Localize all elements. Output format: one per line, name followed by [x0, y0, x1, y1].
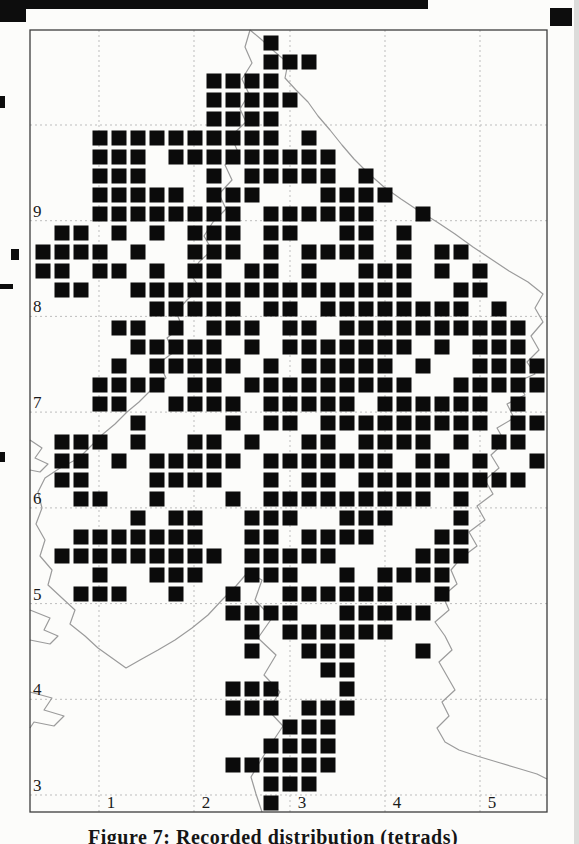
tetrad-square	[169, 340, 184, 355]
tetrad-square	[321, 169, 336, 184]
tetrad-square	[283, 758, 298, 773]
tetrad-square	[302, 55, 317, 70]
tetrad-square	[359, 454, 374, 469]
y-axis-label: 9	[33, 202, 42, 221]
tetrad-square	[207, 435, 222, 450]
tetrad-square	[397, 492, 412, 507]
tetrad-square	[454, 283, 469, 298]
y-axis-label: 4	[33, 680, 42, 699]
tetrad-square	[93, 397, 108, 412]
tetrad-square	[302, 378, 317, 393]
tetrad-square	[74, 435, 89, 450]
tetrad-square	[169, 511, 184, 526]
tetrad-square	[188, 568, 203, 583]
tetrad-square	[283, 454, 298, 469]
tetrad-square	[321, 587, 336, 602]
tetrad-square	[340, 530, 355, 545]
tetrad-square	[74, 454, 89, 469]
y-axis-label: 8	[33, 297, 42, 316]
tetrad-square	[93, 150, 108, 165]
tetrad-square	[321, 530, 336, 545]
tetrad-square	[188, 454, 203, 469]
tetrad-square	[435, 530, 450, 545]
tetrad-square	[207, 340, 222, 355]
tetrad-square	[245, 188, 260, 203]
tetrad-square	[473, 416, 488, 431]
tetrad-square	[93, 549, 108, 564]
tetrad-square	[264, 492, 279, 507]
tetrad-square	[435, 245, 450, 260]
tetrad-square	[302, 587, 317, 602]
tetrad-square	[359, 511, 374, 526]
tetrad-square	[283, 587, 298, 602]
tetrad-square	[74, 245, 89, 260]
tetrad-square	[112, 530, 127, 545]
tetrad-square	[283, 606, 298, 621]
tetrad-square	[131, 530, 146, 545]
tetrad-square	[359, 606, 374, 621]
tetrad-square	[169, 321, 184, 336]
tetrad-square	[245, 511, 260, 526]
tetrad-square	[454, 530, 469, 545]
tetrad-square	[264, 777, 279, 792]
tetrad-square	[264, 74, 279, 89]
tetrad-square	[397, 245, 412, 260]
tetrad-square	[435, 340, 450, 355]
tetrad-square	[264, 758, 279, 773]
tetrad-square	[226, 283, 241, 298]
tetrad-square	[245, 644, 260, 659]
tetrad-square	[492, 321, 507, 336]
tetrad-square	[283, 226, 298, 241]
tetrad-square	[435, 397, 450, 412]
tetrad-square	[55, 245, 70, 260]
scan-artifact	[0, 284, 13, 289]
tetrad-square	[283, 207, 298, 222]
tetrad-square	[226, 207, 241, 222]
tetrad-square	[131, 378, 146, 393]
y-axis-label: 5	[33, 585, 42, 604]
tetrad-square	[188, 340, 203, 355]
tetrad-square	[207, 169, 222, 184]
tetrad-square	[150, 492, 165, 507]
tetrad-square	[321, 150, 336, 165]
tetrad-square	[188, 207, 203, 222]
tetrad-square	[397, 378, 412, 393]
tetrad-square	[473, 321, 488, 336]
tetrad-square	[93, 264, 108, 279]
tetrad-square	[492, 473, 507, 488]
tetrad-square	[302, 283, 317, 298]
tetrad-square	[340, 682, 355, 697]
scan-artifact	[11, 249, 19, 260]
tetrad-square	[207, 473, 222, 488]
tetrad-square	[264, 378, 279, 393]
tetrad-square	[55, 454, 70, 469]
tetrad-square	[74, 549, 89, 564]
county-outline	[30, 440, 48, 472]
tetrad-square	[416, 416, 431, 431]
tetrad-square	[169, 150, 184, 165]
tetrad-square	[207, 207, 222, 222]
tetrad-square	[340, 511, 355, 526]
tetrad-square	[226, 245, 241, 260]
tetrad-square	[397, 321, 412, 336]
tetrad-square	[321, 207, 336, 222]
tetrad-square	[245, 321, 260, 336]
tetrad-square	[169, 473, 184, 488]
tetrad-square	[302, 454, 317, 469]
tetrad-square	[340, 359, 355, 374]
tetrad-square	[264, 207, 279, 222]
tetrad-square	[302, 777, 317, 792]
tetrad-square	[530, 416, 545, 431]
tetrad-square	[283, 150, 298, 165]
tetrad-square	[188, 549, 203, 564]
tetrad-square	[340, 378, 355, 393]
tetrad-square	[188, 530, 203, 545]
tetrad-square	[492, 302, 507, 317]
tetrad-square	[321, 739, 336, 754]
tetrad-square	[207, 188, 222, 203]
tetrad-square	[340, 587, 355, 602]
tetrad-square	[397, 397, 412, 412]
tetrad-square	[131, 131, 146, 146]
tetrad-square	[264, 682, 279, 697]
tetrad-square	[112, 359, 127, 374]
